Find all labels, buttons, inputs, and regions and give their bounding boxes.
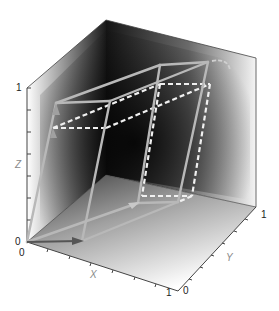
x-tick-0-label: 0 <box>19 248 25 258</box>
x-axis-label: X <box>90 270 97 280</box>
3d-diagram <box>0 0 279 311</box>
y-tick-1-label: 1 <box>261 210 267 220</box>
z-tick-0-label: 0 <box>15 237 21 247</box>
z-axis-label: Z <box>15 160 21 170</box>
y-tick-0-label: 0 <box>183 286 189 296</box>
y-axis-label: Y <box>226 253 233 263</box>
z-tick-1-label: 1 <box>16 83 22 93</box>
x-tick-1-label: 1 <box>166 288 172 298</box>
